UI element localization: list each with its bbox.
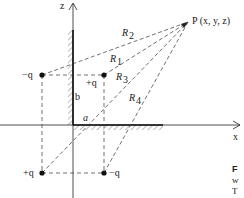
caption-line-3: T [232,186,238,197]
charge-label-bottom-right: −q [109,167,120,178]
svg-text:4: 4 [136,95,141,106]
charge-label-top-left: −q [22,69,33,80]
dimension-a-label: a [83,112,88,123]
caption-line-2: w [232,175,239,186]
svg-text:2: 2 [129,30,134,41]
charge-label-top-right: +q [86,77,97,88]
x-axis-label: x [233,131,238,142]
line-R3 [42,22,188,173]
charge-top-left [39,72,44,77]
label-R4: R 4 [128,92,141,106]
svg-text:R: R [115,71,122,82]
svg-text:1: 1 [117,56,122,67]
label-R3: R 3 [115,71,128,85]
caption-line-1: F [232,164,238,175]
line-R4 [104,22,188,173]
image-charges-diagram: z x P (x, y, z) −q +q +q −q R 2 R 1 R 3 … [0,0,244,198]
point-p-label: P (x, y, z) [192,15,230,27]
svg-text:R: R [121,27,128,38]
charge-bottom-right [101,170,106,175]
charge-label-bottom-left: +q [23,167,34,178]
charge-top-right [101,72,106,77]
svg-text:R: R [109,53,116,64]
svg-text:3: 3 [123,74,128,85]
charge-bottom-left [39,170,44,175]
line-R1 [104,22,188,75]
z-axis-label: z [60,0,65,11]
svg-text:R: R [128,92,135,103]
dimension-b-label: b [75,91,80,102]
line-R2 [42,22,188,75]
label-R2: R 2 [121,27,134,41]
label-R1: R 1 [109,53,122,67]
